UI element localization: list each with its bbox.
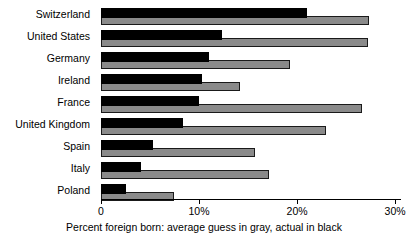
bar-actual-black bbox=[101, 140, 153, 150]
bar-actual-black bbox=[101, 74, 202, 84]
x-tick-mark bbox=[101, 199, 102, 204]
bar-actual-black bbox=[101, 162, 141, 172]
bar-row bbox=[101, 29, 401, 49]
category-label: Ireland bbox=[58, 75, 90, 86]
bar-row bbox=[101, 117, 401, 137]
category-label: United States bbox=[27, 31, 90, 42]
category-label: Switzerland bbox=[36, 9, 90, 20]
bar-row bbox=[101, 95, 401, 115]
bar-actual-black bbox=[101, 184, 126, 194]
category-label: Italy bbox=[71, 163, 90, 174]
category-label: Germany bbox=[47, 53, 90, 64]
category-axis-labels: SwitzerlandUnited StatesGermanyIrelandFr… bbox=[0, 0, 96, 200]
chart-caption: Percent foreign born: average guess in g… bbox=[0, 221, 408, 233]
x-tick-mark bbox=[199, 199, 200, 204]
bar-row bbox=[101, 183, 401, 203]
x-axis-line bbox=[101, 199, 401, 200]
bar-row bbox=[101, 51, 401, 71]
bar-actual-black bbox=[101, 96, 199, 106]
category-label: Poland bbox=[57, 185, 90, 196]
x-tick-mark bbox=[395, 199, 396, 204]
bar-actual-black bbox=[101, 8, 307, 18]
bar-row bbox=[101, 139, 401, 159]
bar-actual-black bbox=[101, 30, 222, 40]
bar-actual-black bbox=[101, 52, 209, 62]
plot-area bbox=[101, 0, 401, 200]
x-tick-label: 10% bbox=[189, 205, 210, 217]
bar-row bbox=[101, 161, 401, 181]
foreign-born-bar-chart: SwitzerlandUnited StatesGermanyIrelandFr… bbox=[0, 0, 408, 240]
x-tick-label: 0 bbox=[98, 205, 104, 217]
bar-row bbox=[101, 73, 401, 93]
category-label: France bbox=[57, 97, 90, 108]
bar-actual-black bbox=[101, 118, 183, 128]
x-tick-label: 20% bbox=[287, 205, 308, 217]
bar-row bbox=[101, 7, 401, 27]
category-label: Spain bbox=[63, 141, 90, 152]
x-tick-label: 30% bbox=[385, 205, 406, 217]
x-tick-mark bbox=[297, 199, 298, 204]
category-label: United Kingdom bbox=[15, 119, 90, 130]
